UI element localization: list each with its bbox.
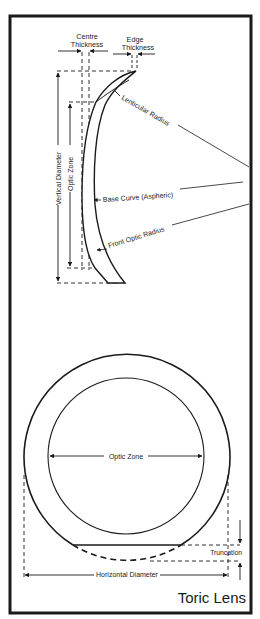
- label-optic-zone-side: Optic Zone: [67, 157, 75, 191]
- label-vertical-diameter: Vertical Diameter: [55, 151, 62, 205]
- label-optic-zone-front: Optic Zone: [109, 453, 143, 461]
- label-truncation: Truncation: [210, 549, 242, 556]
- side-view: [57, 51, 249, 283]
- label-front-optic-radius: Front Optic Radius: [107, 225, 166, 250]
- label-base-curve: Base Curve (Aspheric): [103, 191, 174, 204]
- front-view: [24, 354, 240, 580]
- toric-lens-diagram: Centre Thickness Edge Thickness Lenticul…: [0, 0, 260, 619]
- label-centre-thickness-2: Thickness: [71, 40, 104, 49]
- diagram-title: Toric Lens: [178, 589, 246, 606]
- label-lenticular-radius: Lenticular Radius: [121, 94, 172, 127]
- label-horizontal-diameter: Horizontal Diameter: [96, 571, 159, 578]
- label-edge-thickness-2: Thickness: [122, 43, 155, 52]
